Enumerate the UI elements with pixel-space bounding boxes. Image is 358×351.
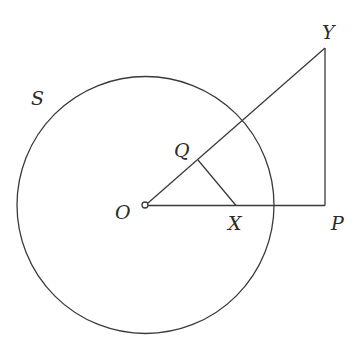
point-o-marker xyxy=(142,202,148,208)
label-circle-s: S xyxy=(31,87,44,109)
label-x: X xyxy=(226,212,243,234)
segment-qx xyxy=(198,160,236,206)
geometry-diagram: S O Q X Y P xyxy=(0,0,358,351)
label-q: Q xyxy=(174,139,190,161)
label-p: P xyxy=(330,212,345,234)
segment-oy xyxy=(148,48,325,203)
label-o: O xyxy=(115,201,131,223)
label-y: Y xyxy=(322,21,337,43)
